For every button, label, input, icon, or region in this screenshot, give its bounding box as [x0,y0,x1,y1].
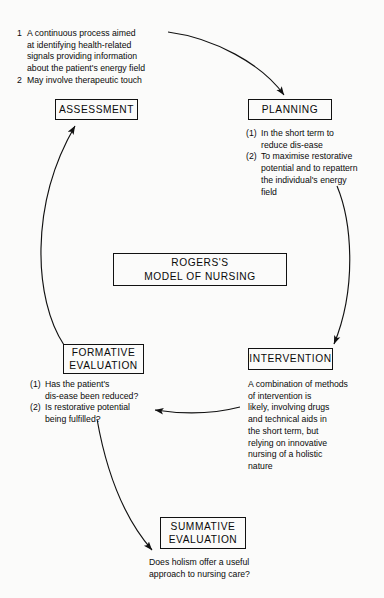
node-planning-label: PLANNING [262,103,318,116]
formative-detail-list: (1) Has the patient's dis-ease been redu… [30,379,188,426]
list-marker: (2) [30,402,45,414]
node-center-model-label: ROGERS'S MODEL OF NURSING [144,256,255,282]
arrow-layer [0,0,384,598]
list-text: Has the patient's dis-ease been reduced? [45,379,188,402]
list-item: 1 A continuous process aimed at identify… [17,28,212,75]
list-text: May involve therapeutic touch [27,75,212,87]
summative-detail-text: Does holism offer a useful approach to n… [149,557,319,580]
list-item: (1) Has the patient's dis-ease been redu… [30,379,188,402]
arrow-planning-to-intervention [334,186,350,344]
list-item: (2) To maximise restorative potential an… [246,151,382,198]
list-item: 2 May involve therapeutic touch [17,75,212,87]
list-text: Is restorative potential being fulfilled… [45,402,188,425]
list-marker: (1) [246,128,261,140]
node-planning: PLANNING [248,99,332,120]
node-intervention: INTERVENTION [248,348,333,370]
list-marker: 2 [17,75,27,87]
assessment-detail-list: 1 A continuous process aimed at identify… [17,28,212,87]
node-center-model: ROGERS'S MODEL OF NURSING [113,253,287,286]
arrow-formative-to-assessment [41,126,75,345]
planning-detail-list: (1) In the short term to reduce dis-ease… [246,128,382,198]
list-text: A continuous process aimed at identifyin… [27,28,212,75]
node-formative-evaluation-label: FORMATIVE EVALUATION [69,346,138,372]
list-text: In the short term to reduce dis-ease [261,128,382,151]
node-formative-evaluation: FORMATIVE EVALUATION [63,344,144,374]
list-marker: (1) [30,379,45,391]
list-item: (2) Is restorative potential being fulfi… [30,402,188,425]
list-marker: 1 [17,28,27,40]
intervention-detail-text: A combination of methods of intervention… [248,379,380,473]
node-assessment: ASSESSMENT [55,99,138,120]
node-summative-evaluation-label: SUMMATIVE EVALUATION [169,520,238,546]
node-summative-evaluation: SUMMATIVE EVALUATION [160,517,246,549]
list-text: To maximise restorative potential and to… [261,151,382,198]
list-item: (1) In the short term to reduce dis-ease [246,128,382,151]
node-assessment-label: ASSESSMENT [59,103,134,116]
node-intervention-label: INTERVENTION [249,352,331,365]
arrow-formative-to-summative [97,419,152,550]
rogers-model-diagram: ASSESSMENT PLANNING ROGERS'S MODEL OF NU… [0,0,384,598]
list-marker: (2) [246,151,261,163]
